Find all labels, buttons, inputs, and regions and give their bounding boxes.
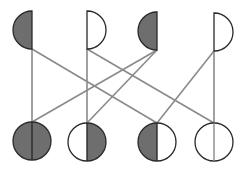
top-node-T3 <box>138 12 157 50</box>
edge-layer <box>32 49 214 123</box>
left-half <box>13 122 32 160</box>
top-node-T1 <box>13 11 32 49</box>
top-node-row <box>13 11 233 51</box>
right-half <box>214 123 233 161</box>
bottom-node-B2 <box>68 123 106 161</box>
half-disc-left <box>13 11 32 49</box>
half-disc-right <box>214 13 233 51</box>
right-half <box>87 123 106 161</box>
right-half <box>157 123 176 161</box>
half-circle-matching-diagram <box>0 0 250 172</box>
left-half <box>68 123 87 161</box>
bottom-node-B4 <box>195 123 233 161</box>
bottom-node-B3 <box>138 123 176 161</box>
edge-T3-B2 <box>87 50 157 123</box>
bottom-node-row <box>13 122 233 161</box>
half-disc-left <box>138 12 157 50</box>
left-half <box>195 123 214 161</box>
top-node-T2 <box>87 11 106 49</box>
right-half <box>32 122 51 160</box>
half-disc-right <box>87 11 106 49</box>
edge-T2-B4 <box>87 49 214 123</box>
left-half <box>138 123 157 161</box>
top-node-T4 <box>214 13 233 51</box>
bottom-node-B1 <box>13 122 51 160</box>
edge-T4-B3 <box>157 51 214 123</box>
